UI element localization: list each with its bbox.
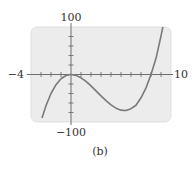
cubic-function-figure: 100 −100 −4 10 (b) — [0, 0, 192, 171]
x-max-label: 10 — [174, 68, 188, 81]
x-min-label: −4 — [8, 68, 24, 81]
figure-caption: (b) — [92, 145, 108, 158]
y-min-label: −100 — [56, 126, 86, 139]
y-max-label: 100 — [61, 11, 82, 24]
